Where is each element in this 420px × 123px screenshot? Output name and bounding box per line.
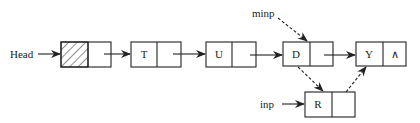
linked-list-diagram: Head T U D Y ∧ minp R xyxy=(0,0,420,123)
node-u: U xyxy=(206,42,256,67)
minp-pointer-arrow xyxy=(278,18,307,41)
minp-label: minp xyxy=(252,7,275,19)
node-head xyxy=(61,42,111,67)
null-pointer-symbol: ∧ xyxy=(391,48,399,60)
node-r: R xyxy=(305,92,355,117)
inp-label: inp xyxy=(260,98,275,110)
node-r-label: R xyxy=(314,98,322,110)
node-d-label: D xyxy=(292,48,300,60)
arrow-d-to-r xyxy=(298,67,323,91)
node-d: D xyxy=(283,42,333,66)
arrow-r-to-y xyxy=(346,67,366,92)
node-y-label: Y xyxy=(365,48,373,60)
hatched-data-cell xyxy=(61,42,88,67)
node-y: Y ∧ xyxy=(356,42,406,66)
node-u-label: U xyxy=(215,48,223,60)
node-t-label: T xyxy=(141,48,148,60)
head-label: Head xyxy=(10,48,34,60)
